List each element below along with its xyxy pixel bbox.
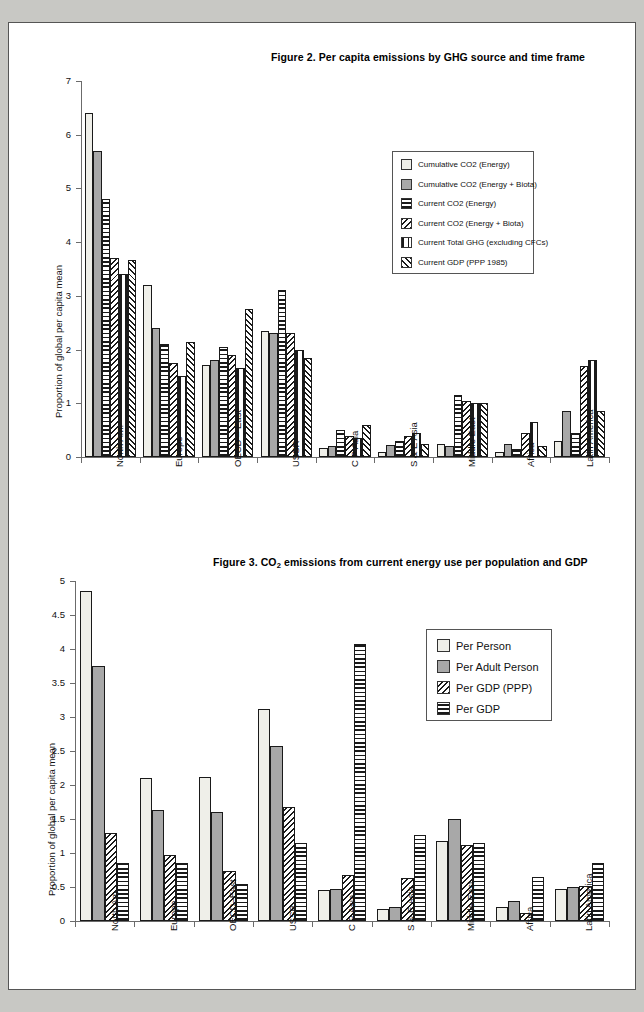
x-axis-category-label: USSR [290,441,301,467]
bar [93,151,102,457]
legend-item: Per Person [437,639,511,652]
y-axis-tick [76,81,81,82]
x-axis-tick [75,921,76,927]
legend-label: Current CO2 (Energy + Biota) [418,219,524,228]
bar [319,448,328,457]
bar [328,446,337,457]
x-axis-category-label: S & E Asia [408,422,419,467]
x-axis-tick [609,921,610,927]
legend-item: Per Adult Person [437,660,539,673]
bar [512,449,521,457]
bar [504,444,513,457]
y-axis-tick-label: 3.5 [41,677,65,688]
bar [186,342,195,457]
bar [389,907,401,921]
x-axis-category-label: S & E Asia [405,886,416,931]
y-axis-tick-label: 2.5 [41,745,65,756]
bar [445,446,454,457]
legend-swatch-icon [437,681,450,694]
legend-item: Current CO2 (Energy + Biota) [401,218,524,229]
bar [496,907,508,921]
bar [395,441,404,457]
x-axis-tick [257,457,258,463]
bar [508,901,520,921]
bar [210,360,219,457]
bar [597,411,606,457]
x-axis-tick [194,921,195,927]
bar [85,113,94,457]
y-axis-tick [76,350,81,351]
y-axis-tick-label: 6 [47,129,71,140]
y-axis-tick-label: 5 [41,575,65,586]
legend-swatch-icon [437,639,450,652]
figure-3-title: Figure 3. CO2 emissions from current ene… [213,556,588,568]
y-axis-tick-label: 2 [41,779,65,790]
bar [152,328,161,457]
bar [555,889,567,921]
bar [199,777,211,921]
x-axis-tick [609,457,610,463]
y-axis-tick-label: 4.5 [41,609,65,620]
bar [437,444,446,457]
x-axis-tick [253,921,254,927]
y-axis-tick [70,819,75,820]
x-axis-tick [492,457,493,463]
legend-label: Current CO2 (Energy) [418,199,496,208]
bar [480,403,489,457]
x-axis-tick [198,457,199,463]
bar [562,411,571,457]
y-axis-tick [70,683,75,684]
bar [211,812,223,921]
y-axis-tick [70,751,75,752]
x-axis-tick [134,921,135,927]
x-axis-tick [433,457,434,463]
y-axis-tick [76,135,81,136]
legend-swatch-icon [401,198,412,209]
legend-label: Cumulative CO2 (Energy) [418,160,510,169]
legend-label: Current GDP (PPP 1985) [418,258,508,267]
legend-item: Current GDP (PPP 1985) [401,257,508,268]
bar [454,395,463,457]
x-axis-category-label: OECD–East [227,879,238,931]
legend-label: Per GDP [456,703,500,715]
figure-3-legend: Per PersonPer Adult PersonPer GDP (PPP)P… [426,629,552,721]
y-axis-tick [76,403,81,404]
bar [436,841,448,921]
y-axis-tick-label: 1 [47,397,71,408]
bar [386,445,395,457]
x-axis-category-label: Latin America [583,873,594,931]
bar [261,331,270,457]
bar [160,344,169,457]
y-axis-tick-label: 5 [47,182,71,193]
legend-swatch-icon [437,660,450,673]
legend-swatch-icon [401,159,412,170]
x-axis-category-label: OECD – East [232,410,243,467]
bar [571,433,580,457]
y-axis-tick-label: 0 [47,451,71,462]
x-axis-category-label: North Am. [114,425,125,467]
legend-swatch-icon [401,237,412,248]
legend-label: Cumulative CO2 (Energy + Biota) [418,180,537,189]
bar [421,444,430,457]
x-axis-tick [490,921,491,927]
y-axis-tick-label: 3 [41,711,65,722]
y-axis-tick [70,785,75,786]
y-axis-tick [70,887,75,888]
bar [304,358,313,457]
figure-2-title: Figure 2. Per capita emissions by GHG so… [271,51,585,63]
bar [269,333,278,457]
y-axis-tick [70,717,75,718]
figure-2-legend: Cumulative CO2 (Energy)Cumulative CO2 (E… [392,151,534,274]
bar [245,309,254,457]
bar [102,199,111,457]
y-axis-tick-label: 4 [41,643,65,654]
legend-label: Per GDP (PPP) [456,682,532,694]
bar [202,365,211,457]
y-axis-tick-label: 1.5 [41,813,65,824]
y-axis-line [81,81,82,457]
y-axis-line [75,581,76,921]
legend-item: Current CO2 (Energy) [401,198,496,209]
y-axis-tick-label: 0.5 [41,881,65,892]
x-axis-category-label: Latin America [584,409,595,467]
bar [318,890,330,921]
